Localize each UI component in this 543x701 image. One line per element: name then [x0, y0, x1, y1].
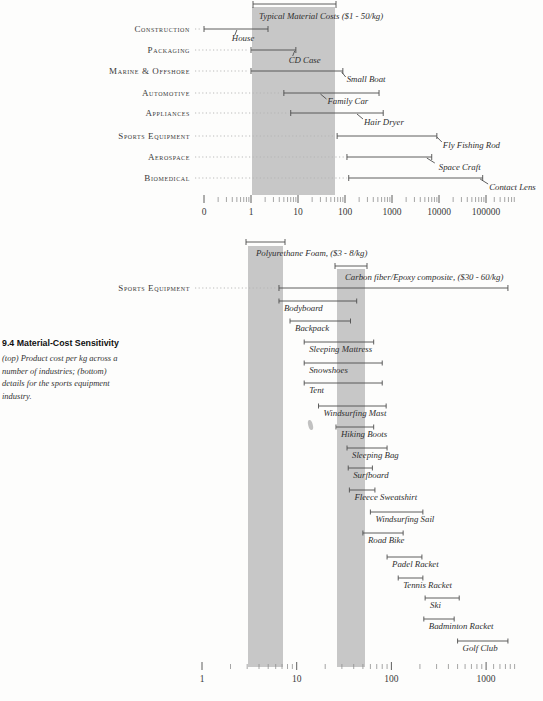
- product-leader: [480, 179, 488, 184]
- product-label: Fly Fishing Rod: [442, 140, 501, 150]
- item-label: Surfboard: [353, 470, 389, 480]
- industry-label: Sports Equipment: [118, 283, 190, 293]
- item-label: Tent: [309, 385, 324, 395]
- axis-tick-label: 1000: [477, 674, 496, 684]
- product-label: Small Boat: [347, 74, 386, 84]
- caption-line: (top) Product cost per kg across a: [2, 352, 134, 365]
- item-label: Golf Club: [463, 643, 499, 653]
- item-label: Bodyboard: [284, 303, 323, 313]
- item-label: Windsurfing Sail: [375, 514, 434, 524]
- industry-label: Packaging: [148, 45, 190, 55]
- axis-tick-label: 10: [292, 674, 302, 684]
- material-band-label: Polyurethane Foam, ($3 - 8/kg): [255, 248, 367, 258]
- industry-label: Automotive: [142, 88, 190, 98]
- industry-label: Marine & Offshore: [109, 66, 190, 76]
- material-band-label: Carbon fiber/Epoxy composite, ($30 - 60/…: [345, 272, 503, 282]
- caption-heading: 9.4 Material-Cost Sensitivity: [2, 338, 134, 348]
- industry-label: Aerospace: [148, 152, 190, 162]
- product-label: Hair Dryer: [363, 117, 404, 127]
- axis-tick-label: 10000: [427, 207, 451, 217]
- product-label: CD Case: [289, 55, 321, 65]
- item-label: Hiking Boots: [340, 429, 388, 439]
- axis-tick-label: 100: [338, 207, 353, 217]
- figure-caption: 9.4 Material-Cost Sensitivity (top) Prod…: [2, 338, 134, 402]
- caption-body: (top) Product cost per kg across anumber…: [2, 352, 134, 402]
- item-label: Windsurfing Mast: [324, 408, 387, 418]
- axis-tick-label: 1: [200, 674, 205, 684]
- product-leader: [342, 72, 346, 77]
- axis-tick-label: 1: [249, 207, 254, 217]
- product-leader: [357, 114, 363, 119]
- item-label: Sleeping Mattress: [309, 344, 373, 354]
- product-label: Family Car: [326, 96, 368, 106]
- item-label: Backpack: [295, 323, 330, 333]
- item-label: Badminton Racket: [429, 621, 494, 631]
- product-leader: [437, 137, 442, 142]
- product-label: Contact Lens: [489, 182, 536, 192]
- caption-line: details for the sports equipment: [2, 377, 134, 390]
- industry-label: Appliances: [145, 108, 190, 118]
- item-label: Snowshoes: [309, 365, 348, 375]
- caption-line: number of industries; (bottom): [2, 365, 134, 378]
- material-band: [248, 246, 283, 667]
- product-label: House: [231, 33, 255, 43]
- typical-cost-band-label: Typical Material Costs ($1 - 50/kg): [259, 11, 383, 21]
- product-leader: [427, 158, 435, 163]
- item-label: Fleece Sweatshirt: [353, 492, 417, 502]
- industry-label: Biomedical: [144, 173, 190, 183]
- item-label: Road Bike: [367, 535, 404, 545]
- industry-label: Construction: [134, 24, 190, 34]
- axis-tick-label: 1000: [383, 207, 402, 217]
- item-label: Ski: [430, 600, 441, 610]
- typical-cost-band: [252, 7, 335, 195]
- industry-label: Sports Equipment: [118, 131, 190, 141]
- material-cost-figure: Typical Material Costs ($1 - 50/kg)Const…: [0, 0, 543, 701]
- item-label: Padel Racket: [391, 559, 439, 569]
- item-label: Tennis Racket: [403, 580, 452, 590]
- axis-tick-label: 100000: [472, 207, 501, 217]
- caption-line: industry.: [2, 390, 134, 403]
- axis-tick-label: 100: [384, 674, 399, 684]
- axis-tick-label: 10: [293, 207, 303, 217]
- print-smudge: [307, 419, 314, 430]
- axis-tick-label: 0: [202, 207, 207, 217]
- product-label: Space Craft: [439, 162, 481, 172]
- item-label: Sleeping Bag: [352, 450, 399, 460]
